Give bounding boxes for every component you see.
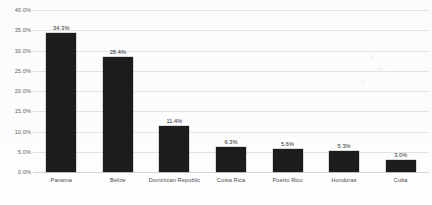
x-axis-category-label: Honduras [316, 176, 373, 184]
x-axis-category-label: Panama [33, 176, 90, 184]
y-axis-tick-label: 5.0% [3, 149, 31, 155]
bar-value-label: 5.3% [338, 143, 351, 149]
y-axis: 0.0%5.0%10.0%15.0%20.0%25.0%30.0%35.0%40… [0, 10, 31, 172]
y-axis-tick-label: 10.0% [3, 129, 31, 135]
x-axis-category-label: Cuba [372, 176, 429, 184]
y-axis-tick-label: 25.0% [3, 68, 31, 74]
y-axis-tick-label: 20.0% [3, 88, 31, 94]
y-axis-tick-label: 35.0% [3, 27, 31, 33]
bar-slot: 28.4% [90, 10, 147, 172]
bar[interactable] [159, 126, 189, 172]
bar-value-label: 11.4% [166, 118, 182, 124]
bar[interactable] [329, 151, 359, 172]
bar-slot: 5.6% [259, 10, 316, 172]
x-axis: PanamaBelizeDominican RepublicCosta Rica… [33, 176, 429, 204]
bar-value-label: 3.0% [394, 152, 407, 158]
x-axis-category-label: Belize [90, 176, 147, 184]
bar-value-label: 34.3% [53, 25, 69, 31]
x-axis-category-label: Costa Rica [203, 176, 260, 184]
y-axis-tick-label: 0.0% [3, 169, 31, 175]
bar[interactable] [273, 149, 303, 172]
bar-slot: 11.4% [146, 10, 203, 172]
y-axis-tick-label: 40.0% [3, 7, 31, 13]
y-axis-tick-label: 15.0% [3, 108, 31, 114]
bar-value-label: 5.6% [281, 141, 294, 147]
bar-slot: 5.3% [316, 10, 373, 172]
bar[interactable] [103, 57, 133, 172]
bar[interactable] [386, 160, 416, 172]
gridline [33, 172, 429, 173]
bar-value-label: 6.3% [224, 139, 237, 145]
bar[interactable] [216, 147, 246, 173]
bar-value-label: 28.4% [110, 49, 126, 55]
y-axis-tick-label: 30.0% [3, 48, 31, 54]
bar-slot: 3.0% [372, 10, 429, 172]
bar-slot: 34.3% [33, 10, 90, 172]
x-axis-category-label: Dominican Republic [146, 176, 203, 184]
x-axis-category-label: Puerto Rico [259, 176, 316, 184]
bar-chart: 0.0%5.0%10.0%15.0%20.0%25.0%30.0%35.0%40… [0, 0, 432, 205]
bar-slot: 6.3% [203, 10, 260, 172]
bar[interactable] [46, 33, 76, 172]
bar-series: 34.3%28.4%11.4%6.3%5.6%5.3%3.0% [33, 10, 429, 172]
